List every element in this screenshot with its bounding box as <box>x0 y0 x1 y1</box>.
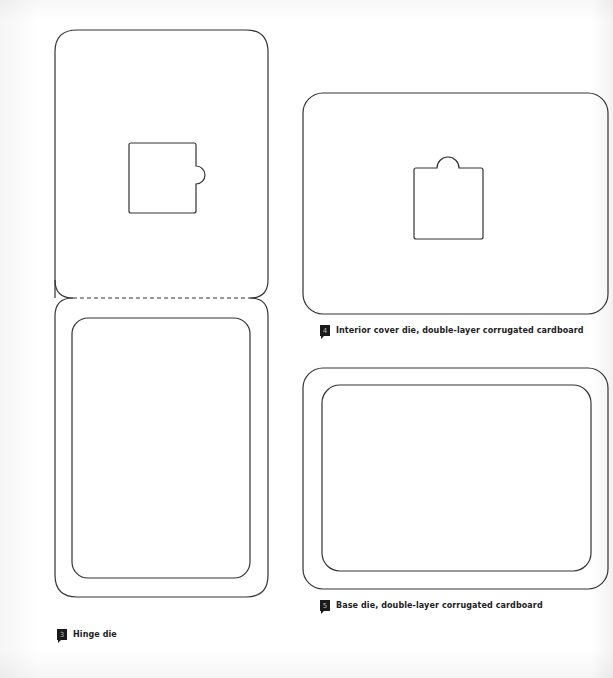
base-outline <box>303 368 608 589</box>
caption-text: Hinge die <box>73 630 117 639</box>
hinge-top-panel <box>55 30 268 298</box>
hinge-inner-window <box>72 318 250 578</box>
caption-text: Base die, double-layer corrugated cardbo… <box>336 601 543 610</box>
figure-number-badge: 3 <box>57 629 67 640</box>
base-inner-window <box>322 385 591 571</box>
caption-hinge: 3 Hinge die <box>57 629 117 640</box>
figure-number-badge: 5 <box>320 600 330 611</box>
interior-cover-outline <box>303 93 608 314</box>
hinge-puzzle-cutout <box>129 143 205 213</box>
interior-cover-puzzle-cutout <box>414 157 483 239</box>
figure-number-badge: 4 <box>320 325 330 336</box>
hinge-top-panel-left-corner <box>55 280 73 298</box>
caption-interior-cover: 4 Interior cover die, double-layer corru… <box>320 325 584 336</box>
caption-text: Interior cover die, double-layer corruga… <box>336 326 584 335</box>
caption-base: 5 Base die, double-layer corrugated card… <box>320 600 543 611</box>
dies-drawing <box>0 0 613 678</box>
hinge-bottom-panel <box>55 298 268 597</box>
